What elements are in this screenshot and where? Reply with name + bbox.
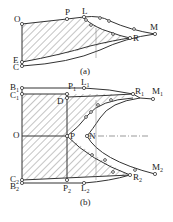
label-L2: L2 <box>81 183 90 194</box>
curve-dot <box>97 104 100 107</box>
panel-b-top-line <box>22 88 133 94</box>
curve-dot <box>85 19 88 22</box>
label-L1: L1 <box>81 77 90 88</box>
curve-dot <box>85 116 88 119</box>
curve-dot <box>99 17 102 20</box>
point-M <box>153 32 156 35</box>
label-R1: R1 <box>135 86 144 97</box>
panel-a: O P L M R E C (a) <box>13 6 158 76</box>
label-N: N <box>89 131 96 141</box>
label-D: D <box>57 96 64 106</box>
curve-dot <box>90 111 93 114</box>
curve-dot <box>134 169 137 172</box>
point-B1 <box>20 86 23 89</box>
panel-b: B1 C1 P1 L1 R1 M1 D O P N C2 B2 P2 L2 R2… <box>10 77 163 207</box>
point-D <box>65 96 68 99</box>
curve-dot <box>108 20 111 23</box>
point-C1 <box>20 92 23 95</box>
diagram-canvas: O P L M R E C (a) <box>0 0 173 222</box>
point-P1 <box>65 92 68 95</box>
caption-b: (b) <box>80 197 91 207</box>
panel-a-hatched-region <box>22 18 128 62</box>
curve-dot <box>133 28 136 31</box>
label-P1: P1 <box>68 81 76 92</box>
label-P: P <box>70 131 75 141</box>
label-R2: R2 <box>133 172 142 183</box>
label-L: L <box>82 6 88 16</box>
point-R2 <box>128 173 131 176</box>
label-P: P <box>65 7 70 17</box>
point-P2 <box>65 178 68 181</box>
point-M2 <box>153 172 156 175</box>
curve-dot <box>104 159 107 162</box>
label-C: C <box>13 62 19 72</box>
point-R <box>128 36 131 39</box>
point-P <box>65 134 68 137</box>
panel-b-hatched-region <box>22 94 130 180</box>
label-P2: P2 <box>63 183 71 194</box>
point-C <box>20 64 23 67</box>
label-M1: M1 <box>152 86 163 97</box>
point-M1 <box>151 97 154 100</box>
curve-dot <box>91 154 94 157</box>
point-P <box>65 17 68 20</box>
label-M: M <box>150 22 158 32</box>
label-R: R <box>133 33 139 43</box>
curve-dot <box>90 24 93 27</box>
label-O: O <box>13 130 20 140</box>
label-M2: M2 <box>152 162 163 173</box>
point-E <box>20 60 23 63</box>
curve-dot <box>110 99 113 102</box>
label-O: O <box>14 14 21 24</box>
curve-dot <box>112 33 115 36</box>
caption-a: (a) <box>80 66 90 76</box>
curve-dot <box>112 171 115 174</box>
point-O <box>20 22 23 25</box>
point-B2 <box>20 181 23 184</box>
